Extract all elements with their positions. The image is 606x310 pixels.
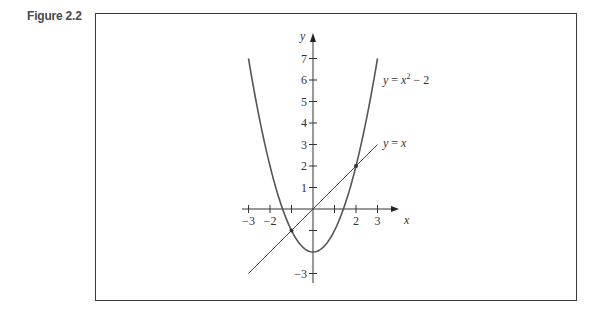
x-tick-label: −3 — [242, 214, 255, 228]
y-tick-label: 5 — [301, 95, 307, 109]
x-tick-label: −2 — [264, 214, 277, 228]
y-axis-arrow-icon — [310, 33, 316, 42]
y-tick-label: 2 — [301, 159, 307, 173]
y-tick-label: 3 — [301, 138, 307, 152]
y-tick-label: 1 — [301, 181, 307, 195]
y-axis-label: y — [299, 29, 306, 43]
plot-area: xy−3−223−31234567y = x2 − 2y = x — [0, 0, 606, 310]
x-tick-label: 2 — [353, 214, 359, 228]
parabola-label: y = x2 − 2 — [382, 72, 429, 87]
x-tick-label: 3 — [375, 214, 381, 228]
y-tick-label: 4 — [301, 116, 307, 130]
y-tick-label: −3 — [294, 267, 307, 281]
intersection-point — [290, 229, 294, 233]
intersection-point — [354, 164, 358, 168]
line-label: y = x — [382, 136, 407, 150]
y-tick-label: 6 — [301, 73, 307, 87]
x-axis-arrow-icon — [391, 206, 399, 212]
y-tick-label: 7 — [301, 52, 307, 66]
x-axis-label: x — [403, 213, 410, 227]
